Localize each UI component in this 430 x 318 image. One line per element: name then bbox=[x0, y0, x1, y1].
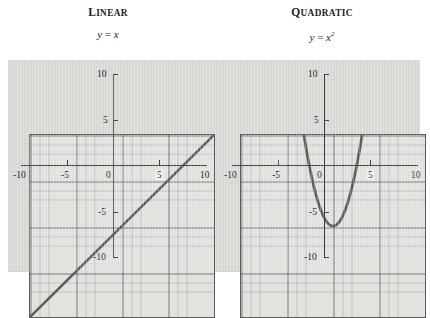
quadratic-ytick-10 bbox=[324, 74, 329, 75]
linear-ylabel--5: -5 bbox=[98, 207, 106, 217]
quadratic-xlabel--5: -5 bbox=[272, 170, 280, 180]
quadratic-equation-exponent: 2 bbox=[331, 30, 335, 38]
quadratic-title: QUADRATIC bbox=[222, 6, 422, 20]
quadratic-panel-header: QUADRATIC y = x2 bbox=[222, 6, 422, 44]
linear-title-rest: INEAR bbox=[96, 8, 128, 18]
quadratic-curve-svg bbox=[241, 135, 425, 317]
linear-curve-line bbox=[30, 135, 214, 317]
linear-equation: y = x bbox=[8, 28, 208, 41]
linear-plot-inner bbox=[30, 135, 214, 317]
linear-x-axis bbox=[21, 165, 207, 166]
quadratic-xlabel-10: 10 bbox=[411, 170, 421, 180]
quadratic-ylabel--5: -5 bbox=[309, 207, 317, 217]
linear-xlabel--10: -10 bbox=[13, 170, 26, 180]
linear-ytick-5 bbox=[113, 120, 118, 121]
linear-plot-frame bbox=[29, 134, 215, 318]
linear-y-axis bbox=[113, 74, 114, 258]
linear-ytick-10 bbox=[113, 74, 118, 75]
linear-xlabel-10: 10 bbox=[200, 170, 210, 180]
linear-panel-header: LINEAR y = x bbox=[8, 6, 208, 41]
linear-equation-operator: = bbox=[105, 28, 111, 40]
quadratic-ylabel--10: -10 bbox=[304, 252, 317, 262]
linear-title-initial: L bbox=[88, 6, 96, 18]
quadratic-ylabel-10: 10 bbox=[308, 69, 318, 79]
quadratic-ytick--5 bbox=[324, 212, 329, 213]
linear-xtick-5 bbox=[159, 160, 160, 165]
quadratic-xlabel--10: -10 bbox=[224, 170, 237, 180]
quadratic-equation: y = x2 bbox=[222, 28, 422, 44]
linear-xlabel-0: 0 bbox=[106, 170, 111, 180]
linear-ylabel--10: -10 bbox=[93, 252, 106, 262]
linear-ylabel-10: 10 bbox=[97, 69, 107, 79]
quadratic-plot-frame bbox=[240, 134, 426, 318]
linear-xtick--5 bbox=[67, 160, 68, 165]
quadratic-xlabel-5: 5 bbox=[367, 170, 374, 180]
quadratic-xtick-5 bbox=[370, 160, 371, 165]
quadratic-ytick-5 bbox=[324, 120, 329, 121]
linear-title: LINEAR bbox=[8, 6, 208, 20]
quadratic-equation-lhs: y bbox=[310, 31, 315, 43]
quadratic-equation-operator: = bbox=[317, 31, 323, 43]
quadratic-xtick--5 bbox=[278, 160, 279, 165]
quadratic-title-rest: UADRATIC bbox=[301, 8, 353, 18]
linear-xlabel--5: -5 bbox=[61, 170, 69, 180]
quadratic-ylabel-5: 5 bbox=[314, 115, 319, 125]
linear-curve-svg bbox=[30, 135, 214, 317]
linear-xlabel-5: 5 bbox=[156, 170, 163, 180]
graphs-panel: -10 -5 0 5 10 10 5 -5 -10 -10 -5 0 5 10 … bbox=[8, 60, 420, 272]
quadratic-xlabel-0: 0 bbox=[317, 170, 322, 180]
quadratic-x-axis bbox=[232, 165, 418, 166]
linear-ytick--5 bbox=[113, 212, 118, 213]
quadratic-title-initial: Q bbox=[291, 6, 300, 18]
quadratic-plot-inner bbox=[241, 135, 425, 317]
quadratic-y-axis bbox=[324, 74, 325, 258]
linear-ylabel-5: 5 bbox=[103, 115, 108, 125]
quadratic-ytick--10 bbox=[324, 257, 329, 258]
linear-equation-rhs: x bbox=[114, 28, 119, 40]
linear-ytick--10 bbox=[113, 257, 118, 258]
linear-equation-lhs: y bbox=[97, 28, 102, 40]
